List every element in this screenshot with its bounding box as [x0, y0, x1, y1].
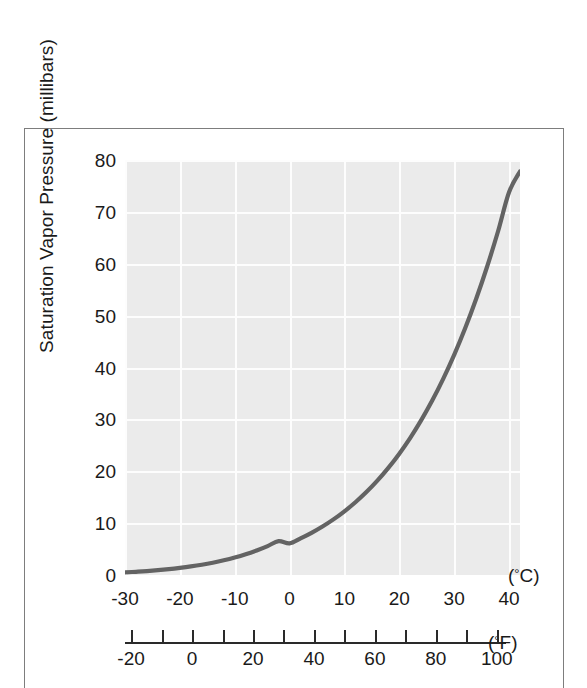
celsius-tick-label: 10 [317, 588, 371, 609]
celsius-unit-label: (°C) [508, 563, 540, 586]
y-axis-tick-label: 70 [76, 202, 116, 221]
y-axis-tick-label: 0 [76, 566, 116, 585]
y-axis-tick-label: 20 [76, 462, 116, 481]
y-axis-tick-label: 80 [76, 151, 116, 170]
celsius-tick-label: 20 [372, 588, 426, 609]
plot-area [125, 160, 520, 575]
fahrenheit-axis: (°F) -20020406080100 [0, 624, 587, 667]
celsius-tick-label: -10 [208, 588, 262, 609]
celsius-axis-tick-labels: -30-20-10010203040 [0, 588, 587, 612]
fahrenheit-tick-mark [192, 630, 194, 642]
fahrenheit-tick-mark [344, 630, 346, 642]
fahrenheit-tick-label: -20 [103, 648, 159, 669]
fahrenheit-tick-mark [375, 630, 377, 642]
fahrenheit-tick-label: 20 [225, 648, 281, 669]
fahrenheit-tick-mark [283, 630, 285, 642]
y-axis-tick-label: 40 [76, 358, 116, 377]
y-axis-tick-label: 50 [76, 306, 116, 325]
fahrenheit-tick-mark [253, 630, 255, 642]
fahrenheit-axis-line [125, 642, 506, 644]
fahrenheit-tick-mark [131, 630, 133, 642]
y-axis-tick-labels: 80706050403020100 [72, 0, 116, 667]
fahrenheit-tick-label: 40 [286, 648, 342, 669]
fahrenheit-tick-label: 80 [408, 648, 464, 669]
celsius-tick-label: -20 [153, 588, 207, 609]
y-axis-tick-label: 60 [76, 254, 116, 273]
fahrenheit-tick-mark [466, 630, 468, 642]
fahrenheit-tick-mark [223, 630, 225, 642]
fahrenheit-tick-mark [162, 630, 164, 642]
fahrenheit-tick-label: 60 [347, 648, 403, 669]
fahrenheit-tick-label: 100 [469, 648, 525, 669]
fahrenheit-tick-mark [436, 630, 438, 642]
y-axis-tick-label: 30 [76, 410, 116, 429]
saturation-vapor-pressure-curve [125, 160, 520, 575]
celsius-tick-label: -30 [98, 588, 152, 609]
fahrenheit-tick-mark [405, 630, 407, 642]
y-axis-tick-label: 10 [76, 514, 116, 533]
celsius-tick-label: 40 [482, 588, 536, 609]
y-axis-title: Saturation Vapor Pressure (millibars) [36, 0, 58, 406]
celsius-tick-label: 30 [427, 588, 481, 609]
fahrenheit-tick-mark [314, 630, 316, 642]
fahrenheit-tick-mark [497, 630, 499, 642]
fahrenheit-tick-label: 0 [164, 648, 220, 669]
celsius-unit-suffix: C) [520, 565, 540, 586]
celsius-tick-label: 0 [263, 588, 317, 609]
